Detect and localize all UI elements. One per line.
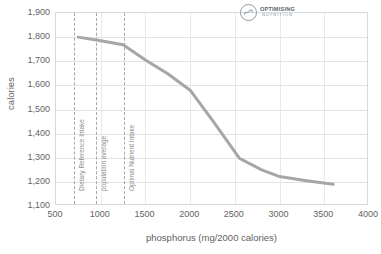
x-axis-title: phosphorus (mg/2000 calories) xyxy=(55,232,368,243)
x-tick-label: 1500 xyxy=(121,209,167,219)
x-tick-label: 3000 xyxy=(256,209,302,219)
x-tick-label: 1000 xyxy=(77,209,123,219)
data-series-line xyxy=(56,13,368,205)
y-tick-label: 1,400 xyxy=(6,128,50,138)
y-axis-title: calories xyxy=(5,57,16,131)
y-tick-label: 1,900 xyxy=(6,7,50,17)
x-tick-label: 2500 xyxy=(211,209,257,219)
y-tick-label: 1,300 xyxy=(6,152,50,162)
y-tick-label: 1,600 xyxy=(6,79,50,89)
logo-text: OPTIMISING NUTRITION xyxy=(260,7,295,17)
y-tick-label: 1,500 xyxy=(6,104,50,114)
x-tick-label: 500 xyxy=(32,209,78,219)
x-tick-label: 2000 xyxy=(166,209,212,219)
x-tick-label: 3500 xyxy=(300,209,346,219)
y-tick-label: 1,200 xyxy=(6,176,50,186)
swoosh-glyph xyxy=(243,7,254,18)
y-tick-label: 1,700 xyxy=(6,55,50,65)
logo-subtitle: NUTRITION xyxy=(260,13,295,17)
logo-swoosh-icon xyxy=(240,4,257,21)
y-tick-label: 1,800 xyxy=(6,31,50,41)
optimising-nutrition-logo: OPTIMISING NUTRITION xyxy=(240,4,295,21)
chart-container: calories phosphorus (mg/2000 calories) 1… xyxy=(0,0,381,254)
plot-area: Dietary Reference Intakepopulation avera… xyxy=(55,12,368,205)
x-tick-label: 4000 xyxy=(345,209,381,219)
